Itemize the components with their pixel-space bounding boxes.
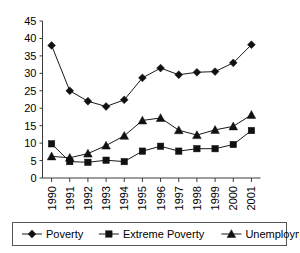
x-axis-tick-labels: 1990199119921993199419951996199719981999… [46, 186, 258, 210]
data-point-square [248, 127, 254, 133]
y-tick-label: 45 [24, 15, 36, 27]
data-point-diamond [48, 42, 56, 50]
y-tick-label: 40 [24, 32, 36, 44]
data-point-triangle [102, 141, 111, 149]
x-tick-label: 1991 [64, 186, 76, 210]
x-axis-group: 1990199119921993199419951996199719981999… [43, 178, 261, 210]
data-point-square [103, 157, 109, 163]
x-tick-label: 1999 [209, 186, 221, 210]
data-point-diamond [175, 71, 183, 79]
data-point-square [85, 159, 91, 165]
x-tick-label: 1995 [136, 186, 148, 210]
series-layer [47, 41, 255, 166]
series-extreme-poverty [48, 127, 254, 165]
data-point-diamond [211, 68, 219, 76]
data-point-square [106, 231, 112, 237]
x-tick-label: 1996 [155, 186, 167, 210]
data-point-square [230, 141, 236, 147]
x-tick-label: 1992 [82, 186, 94, 210]
y-tick-label: 30 [24, 67, 36, 79]
y-tick-label: 20 [24, 102, 36, 114]
data-point-triangle [247, 111, 256, 119]
data-point-square [176, 148, 182, 154]
x-tick-label: 1990 [46, 186, 58, 210]
chart-canvas: 051015202530354045 199019911992199319941… [0, 0, 299, 253]
data-point-diamond [84, 97, 92, 105]
data-point-square [212, 145, 218, 151]
x-tick-label: 1993 [100, 186, 112, 210]
x-tick-label: 1997 [173, 186, 185, 210]
x-tick-label: 1998 [191, 186, 203, 210]
y-tick-label: 35 [24, 50, 36, 62]
series-line [52, 45, 252, 107]
y-tick-label: 15 [24, 120, 36, 132]
x-axis-ticks [52, 178, 252, 182]
data-point-square [139, 148, 145, 154]
data-point-square [194, 145, 200, 151]
series-line [52, 131, 252, 163]
data-point-triangle [84, 149, 93, 157]
data-point-square [121, 158, 127, 164]
y-axis-tick-labels: 051015202530354045 [24, 15, 36, 184]
y-axis-group: 051015202530354045 [24, 15, 42, 184]
series-line [52, 115, 252, 158]
data-point-triangle [229, 122, 238, 130]
legend-label: Poverty [46, 228, 84, 240]
x-tick-label: 1994 [118, 186, 130, 210]
data-point-triangle [156, 114, 165, 122]
x-tick-label: 2000 [227, 186, 239, 210]
y-tick-label: 25 [24, 85, 36, 97]
chart-legend: PovertyExtreme PovertyUnemployment [13, 223, 300, 246]
x-tick-label: 2001 [245, 186, 257, 210]
data-point-square [48, 141, 54, 147]
data-point-square [157, 143, 163, 149]
data-point-triangle [174, 126, 183, 134]
series-poverty [48, 41, 256, 111]
data-point-diamond [193, 68, 201, 76]
data-point-diamond [102, 103, 110, 111]
series-unemployment [47, 111, 255, 162]
line-chart: 051015202530354045 199019911992199319941… [0, 0, 299, 253]
data-point-diamond [157, 64, 165, 72]
y-tick-label: 0 [30, 172, 36, 184]
legend-label: Extreme Poverty [123, 228, 205, 240]
data-point-diamond [66, 87, 74, 95]
y-tick-label: 5 [30, 155, 36, 167]
legend-label: Unemployment [245, 228, 299, 240]
y-tick-label: 10 [24, 137, 36, 149]
data-point-triangle [47, 152, 56, 160]
